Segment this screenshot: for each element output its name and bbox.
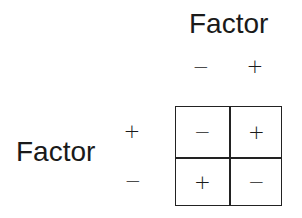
column-factor-label: Factor: [189, 10, 268, 38]
row-factor-label: Factor: [16, 138, 95, 166]
interaction-grid: − + + −: [175, 106, 282, 206]
cell-r2-c2: −: [230, 157, 283, 207]
cell-r2-c1: +: [176, 157, 229, 207]
row-level-minus: −: [121, 171, 145, 191]
cell-r1-c1: −: [176, 107, 229, 157]
cell-r1-c2: +: [230, 107, 283, 157]
column-level-plus: +: [243, 56, 267, 76]
row-level-plus: +: [120, 121, 144, 141]
column-level-minus: −: [189, 57, 213, 77]
